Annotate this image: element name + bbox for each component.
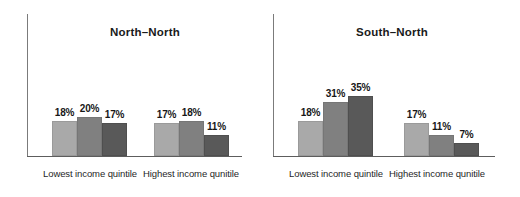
x-tick-label-left-highest: Highest income qunitile [130, 168, 252, 179]
chart-panel-south-north: South–North 18% 31% 35% 17% 11% 7% Lowes… [262, 0, 520, 197]
bar-left-g1-s1 [52, 121, 77, 156]
bar-left-g1-s3 [102, 123, 127, 156]
bar-label-left-g2-s3: 11% [202, 121, 231, 132]
bar-right-g2-s1 [404, 123, 429, 156]
bar-label-right-g1-s3: 35% [346, 82, 375, 93]
bar-right-g2-s2 [429, 135, 454, 156]
bar-label-right-g1-s1: 18% [296, 107, 325, 118]
bar-right-g1-s2 [323, 102, 348, 156]
bar-right-g2-s3 [454, 143, 479, 156]
bar-chart-figure: North–North 18% 20% 17% 17% 18% 11% Lowe… [0, 0, 520, 197]
bar-label-right-g2-s1: 17% [402, 109, 431, 120]
bar-left-g1-s2 [77, 117, 102, 156]
bar-right-g1-s1 [298, 121, 323, 156]
bar-right-g1-s3 [348, 96, 373, 156]
bar-label-right-g2-s3: 7% [452, 129, 481, 140]
bar-label-left-g1-s3: 17% [100, 109, 129, 120]
bar-left-g2-s1 [154, 123, 179, 156]
bar-left-g2-s3 [204, 135, 229, 156]
x-tick-label-right-highest: Highest income qunitile [376, 168, 498, 179]
bar-label-left-g2-s2: 18% [177, 107, 206, 118]
bar-left-g2-s2 [179, 121, 204, 156]
chart-panel-north-north: North–North 18% 20% 17% 17% 18% 11% Lowe… [0, 0, 262, 197]
